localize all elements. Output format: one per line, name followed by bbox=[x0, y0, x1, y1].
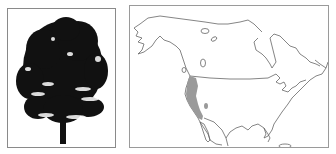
north-america-map bbox=[130, 6, 328, 147]
gulf-coastline bbox=[226, 124, 274, 138]
tree-silhouette-icon bbox=[8, 9, 115, 147]
us-canada-border bbox=[190, 76, 272, 79]
arctic-island bbox=[201, 29, 209, 34]
range-map-panel bbox=[129, 5, 329, 148]
mexico-coastline bbox=[210, 140, 222, 145]
arctic-coastline bbox=[134, 16, 262, 32]
arctic-island bbox=[211, 36, 218, 42]
hudson-bay bbox=[254, 34, 320, 68]
lake-island bbox=[201, 59, 206, 67]
greenland-edge bbox=[315, 60, 328, 68]
tree-illustration-panel bbox=[7, 8, 116, 148]
alaska-coastline bbox=[134, 28, 190, 76]
species-range-area bbox=[186, 76, 208, 120]
baja-peninsula bbox=[200, 122, 210, 142]
atlantic-coastline bbox=[274, 68, 326, 124]
vancouver-island bbox=[182, 68, 186, 73]
cuba-outline bbox=[279, 144, 291, 147]
